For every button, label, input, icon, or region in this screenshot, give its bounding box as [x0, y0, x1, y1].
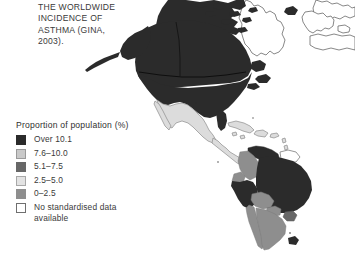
legend-item-over-10-1: Over 10.1	[16, 134, 156, 145]
legend-label-7-6-to-10-0: 7.6–10.0	[34, 148, 68, 159]
region-north-africa-coast	[310, 34, 355, 50]
legend-swatch-over-10-1	[16, 135, 26, 145]
legend-swatch-5-1-to-7-5	[16, 162, 26, 172]
legend-label-no-data: No standardised data available	[34, 202, 117, 224]
map-legend: Proportion of population (%) Over 10.1 7…	[16, 120, 156, 226]
legend-item-7-6-to-10-0: 7.6–10.0	[16, 148, 156, 159]
legend-item-no-data: No standardised data available	[16, 202, 156, 224]
map-speck-bermuda	[195, 102, 197, 104]
map-speck-galapagos	[217, 161, 219, 163]
legend-title: Proportion of population (%)	[16, 120, 156, 130]
map-speck-bahamas	[252, 117, 254, 119]
legend-item-5-1-to-7-5: 5.1–7.5	[16, 161, 156, 172]
legend-swatch-no-data	[16, 203, 26, 213]
figure-caption: THE WORLDWIDE INCIDENCE OF ASTHMA (GINA,…	[38, 2, 143, 48]
legend-swatch-0-to-2-5	[16, 189, 26, 199]
legend-item-0-to-2-5: 0–2.5	[16, 188, 156, 199]
legend-swatch-2-5-to-5-0	[16, 176, 26, 186]
asthma-incidence-map-figure: THE WORLDWIDE INCIDENCE OF ASTHMA (GINA,…	[0, 0, 355, 253]
map-speck-south-atlantic	[289, 232, 291, 234]
legend-label-0-to-2-5: 0–2.5	[34, 188, 56, 199]
legend-item-2-5-to-5-0: 2.5–5.0	[16, 175, 156, 186]
legend-swatch-7-6-to-10-0	[16, 149, 26, 159]
legend-label-over-10-1: Over 10.1	[34, 134, 72, 145]
legend-label-5-1-to-7-5: 5.1–7.5	[34, 161, 63, 172]
legend-label-2-5-to-5-0: 2.5–5.0	[34, 175, 63, 186]
